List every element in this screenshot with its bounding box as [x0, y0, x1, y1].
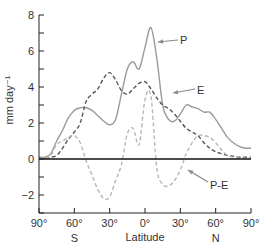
- y-tick-label: 2: [28, 117, 34, 129]
- series-label-e: E: [197, 84, 204, 96]
- y-tick-label: 0: [28, 153, 34, 165]
- x-axis-title: Latitude: [125, 231, 164, 243]
- hemisphere-label: S: [71, 232, 78, 244]
- x-tick-label: 0°: [140, 217, 151, 229]
- annotation-layer: PEP-E: [158, 34, 228, 191]
- x-tick-label: 30°: [101, 217, 118, 229]
- y-tick-label: 6: [28, 45, 34, 57]
- axes-layer: −20246890°60°30°0°30°60°90°SN: [21, 9, 259, 244]
- x-tick-label: 60°: [207, 217, 224, 229]
- x-tick-label: 60°: [66, 217, 83, 229]
- series-label-p: P: [180, 34, 187, 46]
- series-label-pe: P-E: [210, 179, 228, 191]
- x-tick-label: 90°: [243, 217, 260, 229]
- y-tick-label: 8: [28, 9, 34, 21]
- series-p-line: [39, 27, 251, 157]
- y-tick-label: −2: [21, 189, 34, 201]
- x-tick-label: 30°: [172, 217, 189, 229]
- series-layer: [39, 27, 251, 199]
- y-tick-label: 4: [28, 81, 34, 93]
- y-axis-title: mm day⁻¹: [3, 75, 15, 124]
- hemisphere-label: N: [212, 232, 220, 244]
- series-e-line: [39, 73, 251, 159]
- x-tick-label: 90°: [31, 217, 48, 229]
- arrowhead-icon: [173, 90, 178, 94]
- water-balance-chart: PEP-E −20246890°60°30°0°30°60°90°SN mm d…: [0, 0, 273, 252]
